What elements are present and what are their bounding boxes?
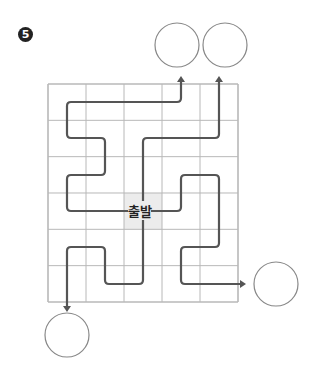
arrow-icon bbox=[240, 280, 246, 288]
maze-diagram bbox=[0, 0, 314, 371]
circle-bottom[interactable] bbox=[45, 313, 89, 357]
answer-circles bbox=[45, 23, 298, 357]
arrow-icon bbox=[177, 76, 185, 82]
circle-top-left[interactable] bbox=[155, 23, 199, 67]
circle-right[interactable] bbox=[254, 262, 298, 306]
circle-top-right[interactable] bbox=[203, 23, 247, 67]
arrow-icon bbox=[63, 306, 71, 312]
arrow-icon bbox=[215, 76, 223, 82]
start-label: 출발 bbox=[128, 201, 151, 220]
